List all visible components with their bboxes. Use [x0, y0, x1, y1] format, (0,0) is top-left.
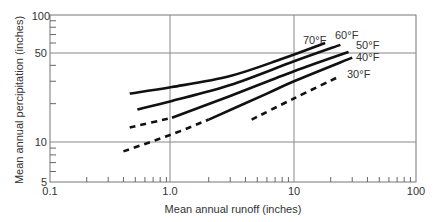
- x-axis-ticks: [87, 177, 411, 182]
- label-70F: 70°F: [303, 34, 327, 46]
- label-30F: 30°F: [347, 68, 371, 80]
- y-tick-50: 50: [35, 47, 47, 59]
- y-tick-labels: 5 10 50 100: [32, 10, 50, 188]
- y-tick-100: 100: [32, 10, 50, 22]
- y-axis-label: Mean annual percipitation (inches): [13, 16, 25, 184]
- line-60f: [137, 45, 340, 110]
- y-axis-ticks: [50, 21, 56, 172]
- y-tick-5: 5: [41, 176, 47, 188]
- series-lines: [123, 43, 352, 151]
- line-50f-dashed: [130, 118, 172, 128]
- x-axis-label: Mean annual runoff (inches): [165, 203, 302, 215]
- label-50F: 50°F: [356, 39, 380, 51]
- x-tick-100: 100: [407, 185, 425, 197]
- line-40f-dashed: [123, 120, 208, 152]
- label-40F: 40°F: [356, 51, 380, 63]
- x-tick-1: 1.0: [162, 185, 177, 197]
- x-tick-labels: 0.1 1.0 10 100: [42, 185, 425, 197]
- chart: 0.1 1.0 10 100 5 10 50 100 Mean annual r…: [0, 0, 438, 222]
- x-tick-10: 10: [288, 185, 300, 197]
- y-tick-10: 10: [35, 136, 47, 148]
